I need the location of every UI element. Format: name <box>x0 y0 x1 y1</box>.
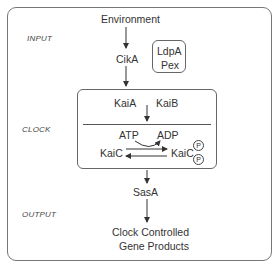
arrow-atp-adp <box>135 141 160 147</box>
arrows-layer <box>0 0 277 268</box>
